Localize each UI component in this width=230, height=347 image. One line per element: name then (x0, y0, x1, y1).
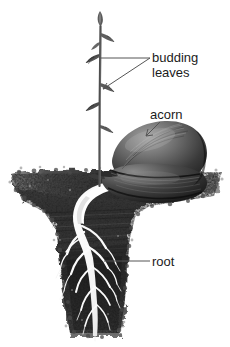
label-acorn: acorn (150, 107, 183, 122)
acorn-germination-diagram: budding leaves acorn root (0, 0, 230, 347)
label-root: root (152, 254, 175, 269)
label-budding-leaves-line2: leaves (152, 65, 190, 80)
label-budding-leaves-line1: budding (152, 50, 198, 65)
